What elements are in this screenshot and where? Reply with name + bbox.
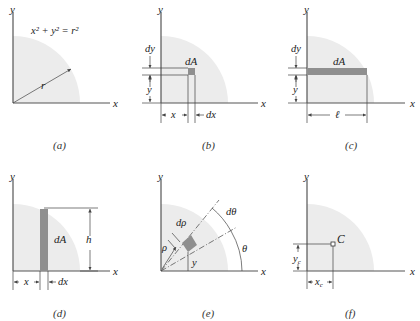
area-element-dA bbox=[307, 68, 367, 75]
y-label: y bbox=[146, 84, 152, 95]
radius-label: r bbox=[41, 79, 46, 91]
y-label: y bbox=[292, 84, 298, 95]
panel-d: h x dx dA y x (d) bbox=[9, 170, 118, 320]
panel-f: C yc xc y x (f) bbox=[292, 170, 415, 320]
x-label: x bbox=[23, 276, 29, 287]
x-axis-label: x bbox=[409, 265, 415, 277]
dA-label: dA bbox=[185, 55, 198, 67]
x-label: x bbox=[170, 109, 176, 120]
caption-c: (c) bbox=[345, 139, 358, 152]
dx-label: dx bbox=[58, 276, 68, 287]
x-axis-label: x bbox=[112, 265, 118, 277]
x-axis-label: x bbox=[409, 97, 415, 109]
dx-label: dx bbox=[206, 109, 216, 120]
x-axis-label: x bbox=[260, 97, 266, 109]
dy-label: dy bbox=[145, 43, 155, 54]
circle-equation: x² + y² = r² bbox=[30, 25, 79, 36]
x-axis-label: x bbox=[260, 265, 266, 277]
panel-b: dy y x dx dA y x (b) bbox=[142, 3, 266, 152]
panel-e: dρ ρ dθ θ y y x (e) bbox=[157, 170, 266, 320]
drho-label: dρ bbox=[176, 217, 186, 228]
x-axis-label: x bbox=[112, 97, 118, 109]
dA-label: dA bbox=[54, 233, 67, 245]
dtheta-label: dθ bbox=[226, 206, 236, 217]
caption-b: (b) bbox=[202, 139, 215, 152]
length-label: ℓ bbox=[335, 109, 340, 120]
rho-label: ρ bbox=[161, 242, 167, 253]
y-axis-label: y bbox=[157, 170, 163, 182]
y-axis-label: y bbox=[9, 3, 15, 15]
xc-label: xc bbox=[314, 276, 324, 289]
y-label: y bbox=[191, 257, 197, 268]
yc-label: yc bbox=[292, 253, 302, 266]
y-axis-label: y bbox=[9, 170, 15, 182]
area-element-dA bbox=[188, 68, 195, 75]
y-axis-label: y bbox=[303, 170, 309, 182]
y-axis-label: y bbox=[157, 3, 163, 15]
dA-label: dA bbox=[333, 55, 346, 67]
panel-a: r y x x² + y² = r² (a) bbox=[9, 3, 118, 152]
caption-f: (f) bbox=[345, 307, 356, 320]
caption-e: (e) bbox=[202, 307, 215, 320]
dy-label: dy bbox=[291, 43, 301, 54]
theta-label: θ bbox=[242, 243, 247, 254]
area-element-dA bbox=[40, 209, 48, 271]
centroid-label: C bbox=[337, 233, 345, 245]
centroid-marker bbox=[331, 242, 335, 246]
caption-a: (a) bbox=[53, 139, 66, 152]
h-label: h bbox=[86, 233, 92, 245]
panel-c: dy y ℓ dA y x (c) bbox=[288, 3, 415, 152]
caption-d: (d) bbox=[53, 307, 66, 320]
y-axis-label: y bbox=[303, 3, 309, 15]
